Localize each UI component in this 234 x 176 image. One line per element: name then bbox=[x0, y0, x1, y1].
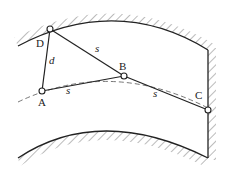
bottom-wall-hatching bbox=[18, 131, 208, 166]
label-s-BC: s bbox=[153, 87, 157, 99]
label-C: C bbox=[195, 89, 202, 101]
label-s-DB: s bbox=[95, 42, 99, 54]
tunnel-diagram: D A B C d s s s bbox=[0, 0, 234, 176]
label-D: D bbox=[36, 37, 44, 49]
segment-AB bbox=[42, 76, 124, 91]
top-wall-hatching bbox=[14, 13, 214, 50]
centerline-dashed-arc bbox=[18, 81, 208, 108]
label-B: B bbox=[119, 60, 126, 72]
label-A: A bbox=[38, 96, 46, 108]
label-s-AB: s bbox=[66, 84, 70, 96]
segment-DB bbox=[50, 29, 124, 76]
point-A bbox=[39, 88, 45, 94]
right-wall-hatching bbox=[208, 48, 216, 160]
label-d: d bbox=[49, 54, 55, 66]
point-B bbox=[121, 73, 127, 79]
point-C bbox=[205, 107, 211, 113]
point-D bbox=[47, 26, 53, 32]
